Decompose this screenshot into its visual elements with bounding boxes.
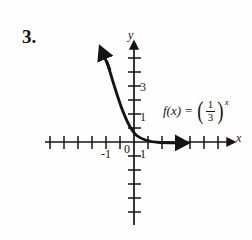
curve-upper-arrowhead <box>104 56 110 70</box>
x-tick-label-negative-1: -1 <box>101 147 111 162</box>
y-tick-label-3: 3 <box>140 80 146 95</box>
exponent: x <box>225 97 229 107</box>
fraction-denominator: 3 <box>208 112 214 123</box>
fraction-numerator: 1 <box>208 99 214 110</box>
function-name: f(x) <box>163 103 181 119</box>
x-axis-label: x <box>236 131 241 146</box>
base-expression: ( 1 3 ) x <box>196 99 228 123</box>
y-tick-label-1: 1 <box>140 110 146 125</box>
figure-page: 3. <box>0 0 252 240</box>
equals-sign: = <box>184 103 193 119</box>
y-axis-label: y <box>128 28 133 43</box>
right-paren: ) <box>217 101 223 121</box>
function-label: f(x) = ( 1 3 ) x <box>163 99 229 123</box>
origin-label: 0 <box>124 142 130 157</box>
fraction-one-third: 1 3 <box>205 99 216 123</box>
x-tick-label-1: 1 <box>140 147 146 162</box>
left-paren: ( <box>198 101 204 121</box>
